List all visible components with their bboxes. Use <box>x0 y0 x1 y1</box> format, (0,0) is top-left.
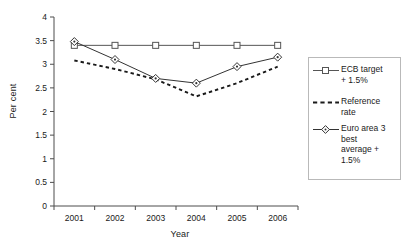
y-tick-label: 0.5 <box>35 177 47 187</box>
legend-item-ecb-target: ECB target + 1.5% <box>312 64 400 85</box>
data-point-center <box>155 77 157 79</box>
chart-figure: 00.511.522.533.54 2001200220032004200520… <box>0 0 408 250</box>
data-point-marker <box>275 42 281 48</box>
y-tick-label: 2 <box>42 107 47 117</box>
x-tick-label: 2005 <box>228 213 247 223</box>
data-point-center <box>114 58 116 60</box>
data-series-group <box>70 38 281 97</box>
x-tick-label: 2006 <box>268 213 287 223</box>
data-point-marker <box>234 42 240 48</box>
data-point-marker <box>153 42 159 48</box>
data-point-center <box>195 82 197 84</box>
legend-item-reference-rate: Reference rate <box>312 96 400 117</box>
legend-item-euro-area: Euro area 3 best average + 1.5% <box>312 123 400 165</box>
x-tick-label: 2003 <box>146 213 165 223</box>
y-tick-label: 3 <box>42 59 47 69</box>
legend-marker-dashed-line <box>312 97 340 108</box>
data-point-center <box>277 56 279 58</box>
legend-label-euro-area: Euro area 3 best average + 1.5% <box>340 123 385 165</box>
legend-marker-open-square <box>312 65 340 76</box>
y-tick-label: 0 <box>42 201 47 211</box>
chart-legend: ECB target + 1.5% Reference rate Euro ar… <box>308 57 401 180</box>
y-axis-ticks: 00.511.522.533.54 <box>35 12 54 211</box>
series-line <box>74 42 277 84</box>
data-point-center <box>73 40 75 42</box>
y-tick-label: 1 <box>42 154 47 164</box>
y-tick-label: 3.5 <box>35 36 47 46</box>
y-tick-label: 1.5 <box>35 130 47 140</box>
y-tick-label: 2.5 <box>35 83 47 93</box>
x-tick-label: 2004 <box>187 213 206 223</box>
x-tick-label: 2001 <box>65 213 84 223</box>
data-point-marker <box>112 42 118 48</box>
series-line <box>74 60 277 96</box>
y-tick-label: 4 <box>42 12 47 22</box>
x-axis-ticks: 200120022003200420052006 <box>54 206 298 223</box>
y-axis-title: Per cent <box>8 71 18 131</box>
data-point-marker <box>193 42 199 48</box>
legend-label-ecb-target: ECB target + 1.5% <box>340 64 383 85</box>
data-point-center <box>236 66 238 68</box>
legend-marker-open-diamond <box>312 124 340 135</box>
legend-label-reference-rate: Reference rate <box>340 96 380 117</box>
x-axis-title: Year <box>140 229 220 239</box>
x-tick-label: 2002 <box>106 213 125 223</box>
